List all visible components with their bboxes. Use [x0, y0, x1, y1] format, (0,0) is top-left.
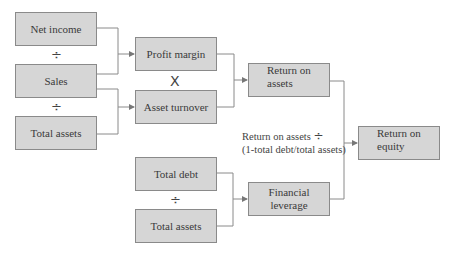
divide-operator: ÷	[313, 129, 323, 143]
roe-label-line2: equity	[377, 140, 405, 153]
total-assets-2-label: Total assets	[151, 220, 202, 233]
box-total-assets-2: Total assets	[135, 209, 217, 243]
sales-label: Sales	[44, 75, 67, 88]
box-sales: Sales	[15, 64, 97, 98]
net-income-label: Net income	[30, 23, 81, 36]
total-assets-label: Total assets	[31, 127, 82, 140]
financial-leverage-line1: Financial	[269, 186, 310, 199]
box-financial-leverage: Financial leverage	[248, 182, 330, 216]
box-profit-margin: Profit margin	[135, 37, 217, 71]
financial-leverage-line2: leverage	[270, 199, 307, 212]
divide-operator: ÷	[51, 99, 62, 114]
box-total-debt: Total debt	[135, 157, 217, 191]
note-line2: (1-total debt/total assets)	[242, 143, 346, 156]
box-asset-turnover: Asset turnover	[135, 90, 217, 124]
box-return-on-equity: Return on equity	[358, 126, 440, 160]
box-total-assets: Total assets	[15, 116, 97, 150]
box-net-income: Net income	[15, 12, 97, 46]
roe-label-line1: Return on	[377, 127, 421, 140]
divide-operator: ÷	[51, 47, 62, 62]
roa-label-line2: assets	[267, 77, 293, 90]
asset-turnover-label: Asset turnover	[144, 101, 208, 114]
roa-label-line1: Return on	[267, 64, 311, 77]
roe-formula-note: Return on assets ÷ (1-total debt/total a…	[242, 130, 346, 156]
note-line1: Return on assets	[242, 131, 311, 142]
divide-operator: ÷	[170, 192, 181, 207]
box-return-on-assets: Return on assets	[248, 63, 330, 97]
profit-margin-label: Profit margin	[147, 48, 206, 61]
total-debt-label: Total debt	[154, 168, 198, 181]
multiply-operator: X	[170, 73, 180, 89]
